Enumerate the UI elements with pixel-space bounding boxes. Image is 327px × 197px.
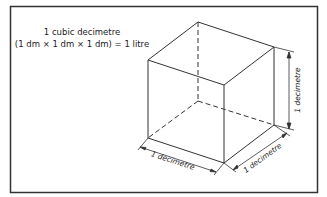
cube-diagram: 1 cubic decimetre (1 dm × 1 dm × 1 dm) =… (0, 0, 327, 197)
width-label: 1 decimetre (150, 149, 196, 172)
caption-formula: (1 dm × 1 dm × 1 dm) = 1 litre (15, 39, 149, 49)
cube-side-face (224, 47, 274, 163)
height-label: 1 decimetre (293, 67, 302, 113)
cube-hidden-edges (148, 22, 274, 138)
cube (148, 22, 274, 163)
depth-label: 1 decimetre (242, 141, 284, 175)
cube-front-face (148, 60, 224, 163)
cube-top-face (148, 22, 274, 85)
caption-title: 1 cubic decimetre (44, 27, 120, 37)
dimension-height (274, 47, 294, 130)
